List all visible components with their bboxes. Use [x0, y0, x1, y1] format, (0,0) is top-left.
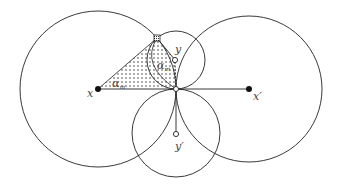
point-yprime	[173, 131, 178, 136]
point-y	[172, 57, 177, 62]
point-top-square	[154, 35, 160, 41]
point-x	[95, 86, 101, 92]
geometry-diagram: x x′ y y′ αm αm	[0, 0, 337, 187]
alpha-inner-subscript: m	[164, 65, 170, 72]
label-y: y	[174, 43, 182, 56]
label-yprime: y′	[174, 140, 184, 153]
point-center	[174, 87, 179, 92]
label-xprime: x′	[253, 90, 262, 103]
label-x: x	[87, 87, 94, 100]
alpha-m-subscript: m	[119, 83, 125, 90]
point-xprime	[246, 86, 252, 92]
